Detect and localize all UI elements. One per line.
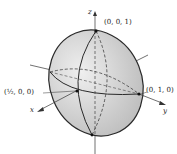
z-axis-label: z	[88, 9, 92, 16]
point-right	[137, 92, 140, 95]
ellipsoid-diagram	[0, 0, 177, 154]
point-bottom	[91, 134, 94, 137]
y-axis-arrow-icon	[159, 101, 166, 105]
x-axis-label: x	[30, 107, 34, 114]
label-front-point: (½, 0, 0)	[4, 89, 34, 96]
x-axis-arrow-icon	[37, 107, 44, 112]
point-top	[94, 29, 97, 32]
label-top-point: (0, 0, 1)	[104, 19, 132, 26]
point-front	[75, 89, 78, 92]
ellipsoid-surface	[33, 16, 159, 151]
label-right-point: (0, 1, 0)	[146, 87, 174, 94]
z-axis-arrow-icon	[93, 11, 97, 16]
y-axis-label: y	[163, 108, 167, 115]
